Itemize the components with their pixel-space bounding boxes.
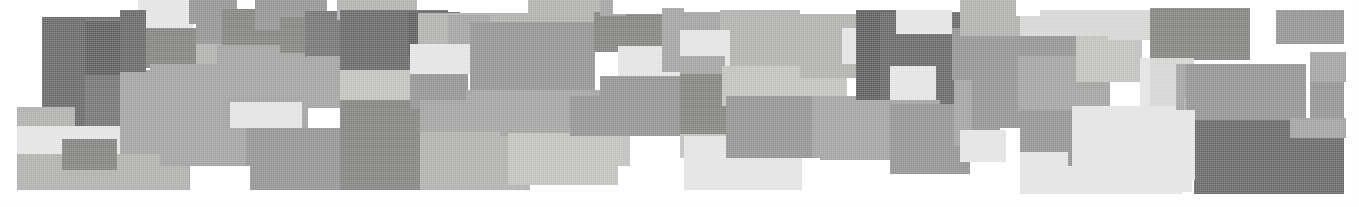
block-98: [150, 64, 220, 108]
block-53: [680, 74, 728, 134]
mosaic-canvas: [0, 0, 1359, 207]
block-95: [600, 136, 630, 166]
block-89: [1276, 10, 1344, 44]
block-21: [190, 166, 250, 190]
block-11: [62, 139, 117, 170]
block-19: [230, 102, 302, 128]
block-55: [726, 96, 816, 158]
block-76: [1020, 110, 1074, 156]
block-57: [800, 0, 860, 14]
block-87: [1186, 64, 1306, 120]
block-100: [1290, 118, 1346, 138]
block-37: [470, 22, 595, 92]
block-99: [120, 10, 146, 72]
block-30: [340, 100, 420, 190]
block-97: [466, 90, 526, 116]
block-91: [1310, 52, 1346, 82]
block-75: [1076, 36, 1142, 82]
block-94: [960, 130, 1006, 162]
block-43: [613, 0, 665, 14]
block-65: [896, 10, 952, 34]
block-96: [570, 96, 618, 136]
block-68: [960, 0, 1020, 36]
block-29: [340, 70, 418, 100]
block-93: [1140, 150, 1192, 192]
block-04: [138, 0, 193, 30]
block-82: [1150, 8, 1250, 60]
block-72: [1016, 0, 1040, 16]
